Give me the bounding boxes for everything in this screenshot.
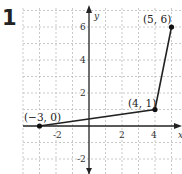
point-label-4-1: (4, 1): [128, 97, 156, 109]
y-axis-label: y: [93, 11, 100, 21]
coordinate-plane: y x -2 2 4 6 4 2 -2 (−3, 0) (4, 1) (5, 6…: [0, 0, 182, 174]
y-axis-down-arrow-icon: [86, 168, 92, 174]
point-label-neg3-0: (−3, 0): [24, 111, 61, 123]
tick-y-6: 6: [80, 22, 86, 32]
tick-x-neg2: -2: [53, 130, 62, 140]
tick-y-2: 2: [80, 88, 86, 98]
y-axis-arrow-icon: [86, 5, 92, 13]
tick-y-4: 4: [80, 55, 86, 65]
tick-x-2: 2: [119, 130, 125, 140]
point-neg3-0: [37, 123, 42, 128]
tick-x-4: 4: [151, 130, 157, 140]
x-axis-arrow-icon: [174, 123, 182, 129]
x-axis-label: x: [178, 130, 182, 140]
point-label-5-6: (5, 6): [143, 13, 171, 25]
tick-y-neg2: -2: [77, 154, 86, 164]
point-5-6: [169, 24, 174, 29]
